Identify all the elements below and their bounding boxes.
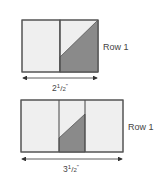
bottom-block: Row 1 31/2" bbox=[21, 100, 154, 174]
quilt-row-diagram: Row 1 21/2" Row 1 31/2" bbox=[0, 0, 165, 181]
top-row-label: Row 1 bbox=[103, 42, 129, 52]
top-left-square bbox=[22, 20, 60, 72]
top-dimension-label: 21/2" bbox=[52, 83, 68, 93]
bottom-dimension-label: 31/2" bbox=[63, 164, 79, 174]
top-block: Row 1 21/2" bbox=[22, 20, 129, 93]
bottom-row-label: Row 1 bbox=[128, 122, 154, 132]
